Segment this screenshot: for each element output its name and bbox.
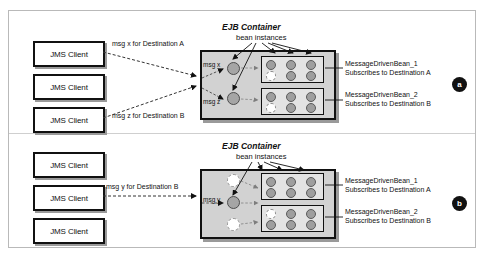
- jms-client-label: JMS Client: [50, 116, 88, 125]
- panel-a-flow-label-2: msg z for Destination B: [112, 112, 184, 119]
- panel-a-bean-pool-1: [261, 56, 324, 83]
- mdb-name: MessageDrivenBean_1: [345, 59, 431, 68]
- panel-b-free-bean-top: [227, 174, 240, 187]
- panel-a-jms-client-1[interactable]: JMS Client: [33, 41, 105, 67]
- bean-instance-free: [266, 71, 276, 81]
- panel-a-badge: a: [452, 77, 467, 92]
- panel-b-jms-client-1[interactable]: JMS Client: [33, 152, 105, 178]
- mdb-subscription: Subscribes to Destination B: [345, 216, 431, 225]
- jms-client-label: JMS Client: [50, 83, 88, 92]
- jms-client-label: JMS Client: [50, 227, 88, 236]
- panel-a-mdb-label-1: MessageDrivenBean_1 Subscribes to Destin…: [345, 59, 431, 78]
- bean-instance: [286, 92, 296, 102]
- bean-instance: [306, 92, 316, 102]
- bean-instance: [266, 188, 276, 198]
- bean-instance: [286, 177, 296, 187]
- panel-a-jms-client-3[interactable]: JMS Client: [33, 107, 105, 133]
- panel-a-ejb-container-title: EJB Container: [222, 22, 281, 32]
- bean-instance: [286, 60, 296, 70]
- bean-instance: [266, 177, 276, 187]
- bean-instance: [306, 188, 316, 198]
- bean-instance: [266, 60, 276, 70]
- bean-instance: [306, 177, 316, 187]
- jms-client-label: JMS Client: [50, 194, 88, 203]
- panel-a-bean-instances-caption: bean instances: [236, 33, 286, 42]
- mdb-subscription: Subscribes to Destination B: [345, 99, 431, 108]
- panel-a-active-bean-2: [227, 92, 240, 105]
- panel-a-mdb-label-2: MessageDrivenBean_2 Subscribes to Destin…: [345, 90, 431, 109]
- bean-instance: [286, 209, 296, 219]
- panel-b-ejb-container-title: EJB Container: [222, 141, 281, 151]
- jms-client-label: JMS Client: [50, 50, 88, 59]
- mdb-name: MessageDrivenBean_2: [345, 207, 431, 216]
- panel-a-active-bean-1: [227, 62, 240, 75]
- panel-b-bean-instances-caption: bean instances: [236, 152, 286, 161]
- mdb-subscription: Subscribes to Destination A: [345, 185, 431, 194]
- mdb-subscription: Subscribes to Destination A: [345, 68, 431, 77]
- panel-a-flow-label-1: msg x for Destination A: [112, 40, 184, 47]
- bean-instance-free: [266, 209, 276, 219]
- panel-b-bean-pool-2: [261, 205, 324, 232]
- panel-a-bean-pool-2: [261, 88, 324, 115]
- panel-b-bean-pool-1: [261, 173, 324, 200]
- bean-instance: [306, 71, 316, 81]
- panel-a-jms-client-2[interactable]: JMS Client: [33, 74, 105, 100]
- panel-b-badge: b: [452, 196, 467, 211]
- bean-instance: [306, 60, 316, 70]
- bean-instance: [286, 71, 296, 81]
- panel-b-msg-label-1: msg y: [203, 196, 220, 203]
- bean-instance: [306, 103, 316, 113]
- bean-instance: [286, 188, 296, 198]
- panel-b-free-bean-bottom: [227, 218, 240, 231]
- bean-instance: [266, 220, 276, 230]
- panel-a-msg-label-2: msg z: [203, 98, 220, 105]
- figure-root: JMS Client JMS Client JMS Client msg x f…: [0, 0, 486, 258]
- panel-a-msg-label-1: msg x: [203, 61, 220, 68]
- panel-b-mdb-label-2: MessageDrivenBean_2 Subscribes to Destin…: [345, 207, 431, 226]
- panel-b-active-bean: [227, 196, 240, 209]
- bean-instance: [286, 220, 296, 230]
- bean-instance: [286, 103, 296, 113]
- panel-b-jms-client-2[interactable]: JMS Client: [33, 185, 105, 211]
- mdb-name: MessageDrivenBean_1: [345, 176, 431, 185]
- bean-instance: [266, 92, 276, 102]
- panel-b-flow-label-1: msg y for Destination B: [106, 183, 178, 190]
- bean-instance-free: [266, 103, 276, 113]
- panel-b-jms-client-3[interactable]: JMS Client: [33, 218, 105, 244]
- panel-b-mdb-label-1: MessageDrivenBean_1 Subscribes to Destin…: [345, 176, 431, 195]
- panel-divider: [9, 133, 475, 134]
- jms-client-label: JMS Client: [50, 161, 88, 170]
- bean-instance: [306, 209, 316, 219]
- bean-instance: [306, 220, 316, 230]
- mdb-name: MessageDrivenBean_2: [345, 90, 431, 99]
